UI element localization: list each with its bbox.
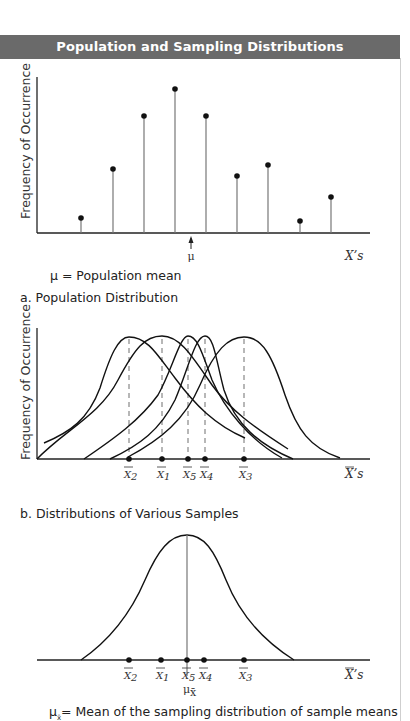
panel-a-x-axis-label: X’s: [344, 249, 364, 263]
panel-c-tick-labels: X2 X1 X5 X4 X3: [123, 668, 252, 683]
figure-canvas: μ X’s: [0, 0, 410, 721]
svg-text:x̄: x̄: [190, 686, 197, 699]
svg-text:5: 5: [190, 471, 196, 482]
panel-a-stems: [81, 89, 331, 233]
tick-x3: X3: [238, 668, 252, 683]
panel-c-legend-mu: μ: [49, 704, 57, 719]
tick-x1: X1: [155, 668, 169, 683]
panel-a-legend: μ = Population mean: [50, 268, 181, 283]
svg-text:1: 1: [163, 672, 169, 683]
tick-x2: X2: [123, 467, 137, 482]
panel-a-mu-arrow: [189, 236, 194, 249]
svg-text:2: 2: [130, 471, 137, 482]
tick-x2: X2: [123, 668, 137, 683]
panel-a-population-distribution: μ X’s: [37, 77, 370, 263]
panel-b-x-axis-label: X’s: [344, 467, 364, 481]
svg-text:4: 4: [206, 471, 213, 482]
tick-x5: X5: [182, 467, 196, 482]
tick-x4: X4: [199, 467, 213, 482]
panel-b-sample-distributions: X2 X1 X5 X4 X3 X’s: [37, 328, 370, 482]
svg-text:3: 3: [246, 471, 252, 482]
svg-text:X’s: X’s: [344, 668, 364, 682]
svg-text:X’s: X’s: [344, 467, 364, 481]
panel-c-legend: μx̄= Mean of the sampling distribution o…: [49, 704, 398, 721]
curve-sample-3: [128, 337, 340, 458]
panel-b-tick-labels: X2 X1 X5 X4 X3: [123, 467, 252, 482]
panel-a-caption: a. Population Distribution: [20, 290, 178, 305]
curve-sample-5: [84, 336, 282, 459]
panel-c-mu-label: μ x̄: [183, 683, 197, 699]
tick-x5: X5: [181, 668, 195, 683]
panel-b-y-axis-label: Frequency of Occurrence: [18, 304, 33, 460]
panel-c-sampling-distribution: X2 X1 X5 X4 X3 μ x̄ X’s: [37, 535, 370, 699]
tick-x3: X3: [238, 467, 252, 482]
svg-text:5: 5: [189, 672, 195, 683]
tick-x1: X1: [156, 467, 170, 482]
panel-b-caption: b. Distributions of Various Samples: [20, 506, 239, 521]
svg-text:4: 4: [205, 672, 212, 683]
panel-c-legend-text: = Mean of the sampling distribution of s…: [61, 704, 398, 719]
panel-a-mu-label: μ: [187, 250, 194, 263]
tick-x4: X4: [198, 668, 212, 683]
svg-text:3: 3: [246, 672, 252, 683]
svg-text:1: 1: [164, 471, 170, 482]
svg-text:2: 2: [130, 672, 137, 683]
curve-sample-4: [110, 336, 293, 459]
panel-c-x-axis-label: X’s: [344, 668, 364, 682]
